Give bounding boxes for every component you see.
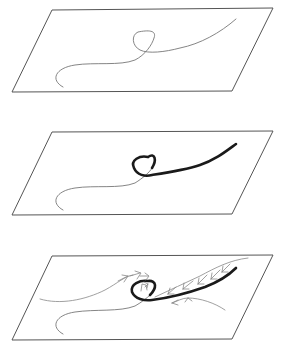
flow-arrow: [222, 264, 230, 272]
flow-arrow: [168, 287, 176, 294]
flow-arrow: [185, 298, 192, 302]
flow-arrow: [140, 273, 149, 280]
filament-curve-1: [56, 19, 236, 87]
flow-arrow: [172, 300, 178, 305]
panel-2: [12, 131, 273, 215]
flow-arrow: [211, 270, 220, 279]
flow-arrow: [183, 281, 193, 289]
plane-3: [12, 255, 273, 340]
flow-arrow-inside-loop: [141, 284, 147, 291]
flow-line-upper-left: [40, 275, 133, 302]
diagram-canvas: [0, 0, 284, 352]
panel-1: [12, 8, 273, 92]
filament-curve-2-emphasis: [133, 144, 236, 176]
panel-3: [12, 255, 273, 340]
plane-2: [12, 131, 273, 215]
flow-line-lower-right: [172, 298, 225, 310]
